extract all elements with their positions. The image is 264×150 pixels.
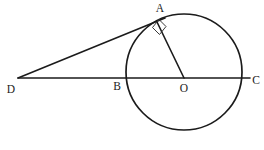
label-point-b: B [113,80,121,92]
label-point-a: A [156,2,165,14]
label-point-o: O [180,82,188,94]
label-point-d: D [7,83,15,95]
segment-radius-oa [157,22,184,78]
segment-tangent-da [18,18,165,78]
geometry-canvas: A B C D O [0,0,264,150]
circle-o [126,14,242,130]
label-point-c: C [252,74,260,86]
geometry-figure: A B C D O [0,0,264,150]
